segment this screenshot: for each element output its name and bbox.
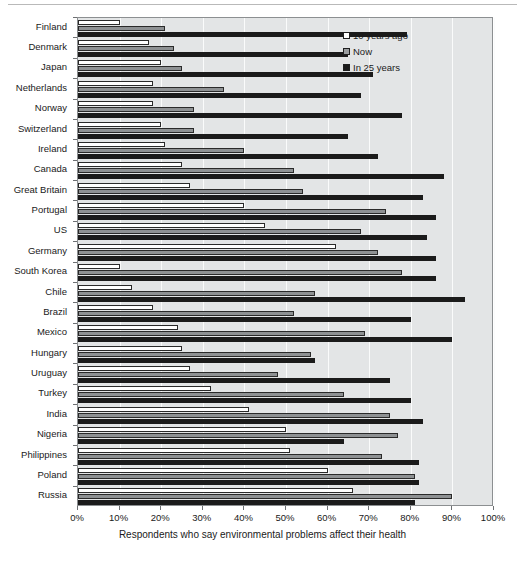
legend-item-in-25-years: In 25 years (343, 62, 455, 73)
bar-portugal-now (78, 209, 386, 214)
plot-area (77, 17, 493, 506)
bar-group (78, 488, 492, 505)
bar-group (78, 203, 492, 220)
bar-canada-ten (78, 162, 182, 167)
chart-legend: 10 years agoNowIn 25 years (337, 26, 459, 82)
x-axis-tick-label: 50% (275, 512, 294, 523)
bar-south-korea-now (78, 270, 402, 275)
y-axis-label-turkey: Turkey (38, 388, 67, 398)
bar-norway-future (78, 113, 402, 118)
bar-japan-now (78, 66, 182, 71)
legend-swatch-icon (343, 32, 350, 39)
bar-great-britain-ten (78, 183, 190, 188)
bar-poland-ten (78, 468, 328, 473)
y-axis-label-japan: Japan (41, 62, 67, 72)
bar-germany-future (78, 256, 436, 261)
bar-hungary-future (78, 358, 315, 363)
y-axis-labels: FinlandDenmarkJapanNetherlandsNorwaySwit… (0, 17, 73, 506)
bar-denmark-future (78, 52, 348, 57)
bar-great-britain-future (78, 195, 423, 200)
y-axis-label-norway: Norway (35, 103, 67, 113)
bar-india-now (78, 413, 390, 418)
bar-south-korea-future (78, 276, 436, 281)
bar-norway-ten (78, 101, 153, 106)
x-axis-tick-label: 80% (400, 512, 419, 523)
y-axis-label-chile: Chile (45, 287, 67, 297)
y-axis-label-nigeria: Nigeria (37, 429, 67, 439)
bar-chile-ten (78, 285, 132, 290)
bar-brazil-ten (78, 305, 153, 310)
legend-swatch-icon (343, 64, 350, 71)
y-axis-label-south-korea: South Korea (14, 266, 67, 276)
y-axis-label-portugal: Portugal (32, 205, 67, 215)
y-axis-label-philippines: Philippines (21, 450, 67, 460)
bar-group (78, 162, 492, 179)
bar-switzerland-future (78, 134, 348, 139)
x-axis-tick (451, 506, 452, 510)
y-axis-label-finland: Finland (36, 22, 67, 32)
bar-group (78, 366, 492, 383)
x-axis-tick (493, 506, 494, 510)
y-axis-label-switzerland: Switzerland (18, 124, 67, 134)
bar-group (78, 386, 492, 403)
bar-group (78, 407, 492, 424)
x-axis-tick-label: 10% (109, 512, 128, 523)
bar-ireland-now (78, 148, 244, 153)
x-axis-tick-label: 40% (234, 512, 253, 523)
y-axis-label-great-britain: Great Britain (14, 185, 67, 195)
bar-germany-now (78, 250, 378, 255)
bar-brazil-future (78, 317, 411, 322)
x-axis-tick-label: 100% (481, 512, 505, 523)
bar-chile-future (78, 297, 465, 302)
bar-group (78, 183, 492, 200)
bar-us-ten (78, 223, 265, 228)
bar-great-britain-now (78, 189, 303, 194)
y-axis-label-us: US (54, 225, 67, 235)
bar-netherlands-ten (78, 81, 153, 86)
bar-nigeria-ten (78, 427, 286, 432)
bars-layer (78, 18, 492, 505)
x-axis-tick (119, 506, 120, 510)
bar-mexico-future (78, 337, 452, 342)
bar-japan-future (78, 72, 373, 77)
x-axis-tick-label: 20% (151, 512, 170, 523)
bar-india-ten (78, 407, 249, 412)
bar-finland-ten (78, 20, 120, 25)
bar-switzerland-ten (78, 122, 161, 127)
y-axis-label-canada: Canada (34, 164, 67, 174)
bar-denmark-ten (78, 40, 149, 45)
y-axis-label-uruguay: Uruguay (31, 368, 67, 378)
y-axis-label-denmark: Denmark (28, 42, 67, 52)
bar-brazil-now (78, 311, 294, 316)
legend-label: 10 years ago (353, 30, 408, 41)
bar-us-future (78, 235, 427, 240)
bar-ireland-ten (78, 142, 165, 147)
legend-label: In 25 years (353, 62, 400, 73)
y-axis-label-netherlands: Netherlands (16, 83, 67, 93)
bar-russia-ten (78, 488, 353, 493)
y-axis-label-hungary: Hungary (31, 348, 67, 358)
bar-chart-figure: FinlandDenmarkJapanNetherlandsNorwaySwit… (0, 0, 525, 561)
x-axis-tick (285, 506, 286, 510)
bar-turkey-now (78, 392, 344, 397)
bar-group (78, 325, 492, 342)
bar-india-future (78, 419, 423, 424)
bar-canada-now (78, 168, 294, 173)
bar-group (78, 305, 492, 322)
bar-chile-now (78, 291, 315, 296)
bar-philippines-now (78, 454, 382, 459)
bar-russia-now (78, 494, 452, 499)
bar-switzerland-now (78, 128, 194, 133)
y-axis-label-poland: Poland (37, 470, 67, 480)
bar-turkey-ten (78, 386, 211, 391)
gridline (494, 18, 495, 505)
x-axis-tick (410, 506, 411, 510)
bar-group (78, 285, 492, 302)
bar-group (78, 81, 492, 98)
x-axis-tick-label: 90% (442, 512, 461, 523)
bar-mexico-now (78, 331, 365, 336)
bar-uruguay-now (78, 372, 278, 377)
bar-ireland-future (78, 154, 378, 159)
x-axis-tick-label: 0% (70, 512, 84, 523)
bar-mexico-ten (78, 325, 178, 330)
